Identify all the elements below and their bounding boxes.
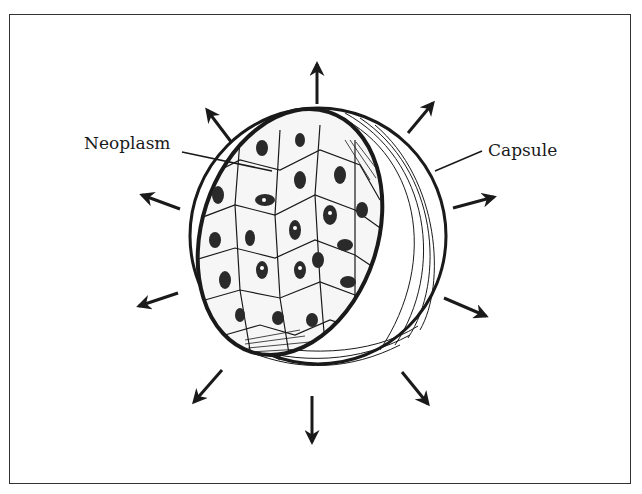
arrow-lower-right-icon xyxy=(444,298,486,316)
arrow-lower-left-icon xyxy=(139,293,178,306)
neoplasm-label: Neoplasm xyxy=(84,133,170,153)
arrow-right-icon xyxy=(453,197,494,208)
arrow-up-right-icon xyxy=(408,103,433,133)
capsule-label: Capsule xyxy=(488,140,557,160)
arrow-down-right-icon xyxy=(402,372,428,404)
capsule-leader-line xyxy=(435,151,482,171)
arrow-up-left-icon xyxy=(207,110,232,143)
arrow-down-left-icon xyxy=(194,370,222,402)
arrow-left-icon xyxy=(142,195,180,209)
neoplasm-illustration xyxy=(0,0,642,494)
